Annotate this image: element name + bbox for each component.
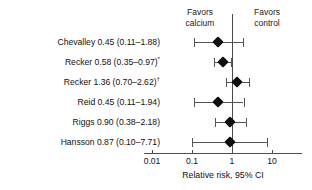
- point-estimate-marker: [232, 76, 243, 87]
- axis-tick: [272, 150, 273, 154]
- axis-tick-label: 0.1: [172, 156, 212, 166]
- ci-lower-cap: [194, 38, 195, 47]
- point-estimate-marker: [224, 116, 235, 127]
- ci-row: [0, 42, 312, 43]
- axis-tick-label: 0.01: [132, 156, 172, 166]
- ci-row: [0, 62, 312, 63]
- x-axis-line: [144, 153, 302, 154]
- ci-lower-cap: [192, 138, 193, 147]
- ci-upper-cap: [267, 138, 268, 147]
- ci-upper-cap: [244, 98, 245, 107]
- axis-tick-label: 1: [212, 156, 252, 166]
- axis-tick: [152, 150, 153, 154]
- point-estimate-marker: [212, 96, 223, 107]
- axis-tick: [192, 150, 193, 154]
- point-estimate-marker: [212, 36, 223, 47]
- ci-row: [0, 102, 312, 103]
- ci-lower-cap: [215, 118, 216, 127]
- ci-row: [0, 122, 312, 123]
- ci-upper-cap: [231, 58, 232, 67]
- point-estimate-marker: [224, 136, 235, 147]
- ci-lower-cap: [226, 78, 227, 87]
- axis-tick: [232, 150, 233, 154]
- ci-row: [0, 82, 312, 83]
- ci-upper-cap: [249, 78, 250, 87]
- x-axis-title: Relative risk, 95% CI: [144, 170, 302, 180]
- ci-row: [0, 142, 312, 143]
- point-estimate-marker: [217, 56, 228, 67]
- ci-upper-cap: [246, 118, 247, 127]
- ci-upper-cap: [243, 38, 244, 47]
- ci-lower-cap: [194, 98, 195, 107]
- axis-tick-label: 10: [252, 156, 292, 166]
- ci-lower-cap: [214, 58, 215, 67]
- forest-plot-figure: Favors calcium Favors control Chevalley …: [0, 0, 312, 190]
